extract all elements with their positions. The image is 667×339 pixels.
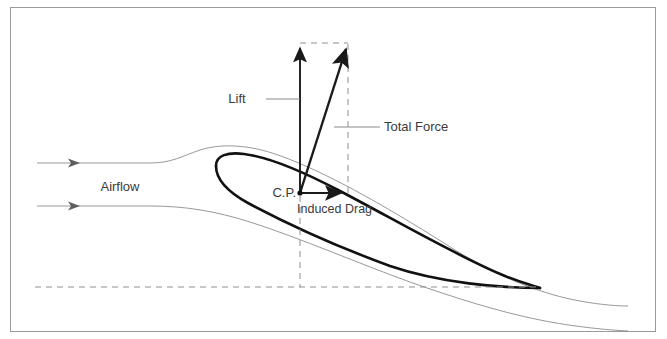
airflow-label: Airflow [100, 179, 140, 194]
total-force-label: Total Force [384, 119, 448, 134]
center-of-pressure-point [297, 190, 302, 195]
induced-drag-label: Induced Drag [297, 202, 372, 216]
airfoil-force-diagram: Lift Total Force C.P. Induced Drag Airfl… [0, 0, 667, 339]
diagram-canvas: Lift Total Force C.P. Induced Drag Airfl… [0, 0, 667, 339]
lift-label: Lift [228, 91, 246, 106]
center-of-pressure-label: C.P. [272, 185, 296, 200]
diagram-border [11, 8, 656, 332]
